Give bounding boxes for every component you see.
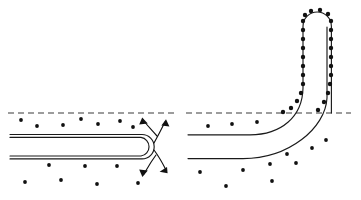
particle (224, 184, 228, 188)
particle (115, 164, 119, 168)
particle (301, 73, 305, 77)
particle (301, 55, 305, 59)
particle (329, 64, 333, 68)
wall-particle-row-right (316, 19, 333, 112)
particle (96, 122, 100, 126)
particle (301, 37, 305, 41)
particle (136, 181, 140, 185)
particle (301, 28, 305, 32)
particle (61, 123, 65, 127)
bent-tube-panel (188, 8, 333, 188)
particle (270, 179, 274, 183)
particle (47, 163, 51, 167)
particle (59, 178, 63, 182)
particle (329, 37, 333, 41)
flow-arrow-upper-inward-head (139, 117, 148, 124)
particle (198, 170, 202, 174)
particle (326, 12, 330, 16)
particle (329, 19, 333, 23)
tube-schematic-diagram (0, 0, 361, 200)
straight-tube-inner-wall (10, 137, 149, 156)
particle (289, 106, 293, 110)
particle (285, 152, 289, 156)
particle (268, 162, 272, 166)
particle (301, 46, 305, 50)
particle (329, 73, 333, 77)
particle-cloud-left-below (23, 163, 140, 186)
particle (255, 120, 259, 124)
particle (79, 117, 83, 121)
particle (329, 28, 333, 32)
particle (241, 168, 245, 172)
particle (131, 125, 135, 129)
particle (324, 138, 328, 142)
particle (316, 108, 320, 112)
particle (301, 64, 305, 68)
particle (299, 91, 303, 95)
particle (95, 182, 99, 186)
particle (326, 91, 330, 95)
particle (328, 82, 332, 86)
particle (281, 110, 285, 114)
flow-arrow-lower-outward-head (160, 167, 168, 173)
bent-tube-outer-wall (188, 12, 331, 135)
particle (309, 9, 313, 13)
particle (329, 55, 333, 59)
particle-cloud-left-above (19, 117, 135, 129)
flow-arrow-lower-outward (154, 150, 166, 170)
particle (295, 99, 299, 103)
particle (23, 180, 27, 184)
particle (322, 100, 326, 104)
particle (310, 146, 314, 150)
particle (303, 13, 307, 17)
figure-canvas (0, 0, 361, 200)
particle (118, 119, 122, 123)
particle (230, 122, 234, 126)
straight-tube-outer-wall (10, 135, 154, 159)
particle-cloud-right-below (198, 138, 328, 188)
particle-cloud-right-above (206, 120, 259, 128)
particle (83, 164, 87, 168)
flow-arrow-upper-outward-head (161, 119, 169, 126)
particle (35, 124, 39, 128)
particle (301, 19, 305, 23)
particle (318, 8, 322, 12)
particle (19, 118, 23, 122)
particle (294, 161, 298, 165)
particle (206, 124, 210, 128)
flow-arrow-lower-inward-head (139, 169, 148, 177)
bent-tube-inner-wall (188, 27, 327, 159)
particle (301, 82, 305, 86)
particle (329, 46, 333, 50)
straight-tube-panel (10, 117, 169, 186)
